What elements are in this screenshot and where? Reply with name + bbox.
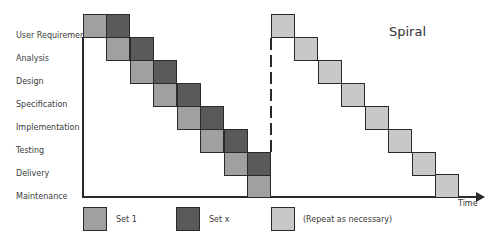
repeat-square: [294, 37, 318, 61]
repeat-square: [341, 83, 365, 107]
phase-label: Maintenance: [16, 192, 68, 202]
phase-label: Testing: [16, 146, 44, 156]
phase-label: User Requirements: [16, 31, 92, 41]
setx-square: [106, 14, 130, 38]
phase-label: Implementation: [16, 123, 80, 133]
y-axis: [82, 37, 84, 198]
set1-square: [130, 60, 154, 84]
repeat-square: [318, 60, 342, 84]
phase-label: Specification: [16, 100, 67, 110]
x-axis: [82, 196, 478, 198]
setx-square: [130, 37, 154, 61]
set1-square: [153, 83, 177, 107]
repeat-square: [412, 152, 436, 176]
set1-square: [106, 37, 130, 61]
repeat-square: [388, 129, 412, 153]
phase-label: Analysis: [16, 54, 49, 64]
repeat-square: [271, 14, 295, 38]
setx-square: [200, 106, 224, 130]
set1-square: [177, 106, 201, 130]
setx-square: [177, 83, 201, 107]
set1-square: [83, 14, 107, 38]
legend-label: (Repeat as necessary): [303, 215, 392, 224]
set1-square: [200, 129, 224, 153]
phase-label: Design: [16, 77, 44, 87]
setx-square: [247, 152, 271, 176]
repeat-square: [365, 106, 389, 130]
legend-swatch-set1: [83, 207, 107, 231]
legend-swatch-repeat: [271, 207, 295, 231]
phase-label: Delivery: [16, 169, 49, 179]
diagram-title: Spiral: [389, 24, 426, 39]
setx-square: [153, 60, 177, 84]
dashed-separator: [270, 38, 272, 152]
setx-square: [224, 129, 248, 153]
legend-label: Set 1: [116, 215, 137, 224]
legend-label: Set x: [209, 215, 229, 224]
repeat-square: [435, 174, 459, 198]
legend-swatch-setx: [176, 207, 200, 231]
x-axis-label: Time: [458, 199, 478, 208]
set1-square: [224, 152, 248, 176]
set1-square: [247, 174, 271, 198]
